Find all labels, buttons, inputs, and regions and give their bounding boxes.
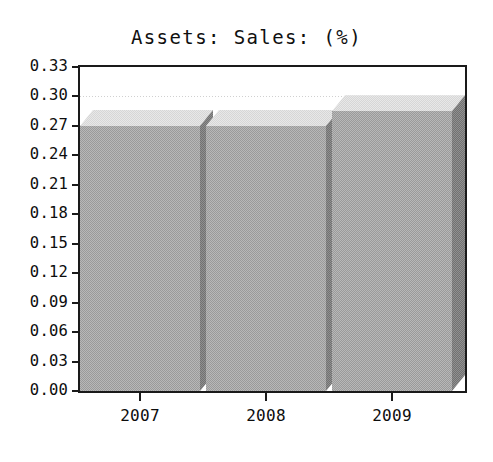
x-axis-tick-mark	[265, 393, 267, 401]
y-axis-tick-label: 0.00	[0, 381, 68, 399]
y-axis-tick-label: 0.24	[0, 145, 68, 163]
y-axis-tick-label: 0.27	[0, 116, 68, 134]
x-axis-tick-mark	[139, 393, 141, 401]
y-axis-tick-label: 0.15	[0, 234, 68, 252]
x-axis-tick-label: 2009	[352, 406, 432, 425]
y-axis-tick-label: 0.33	[0, 57, 68, 75]
bar-top-face	[332, 95, 465, 111]
bar-top-face	[206, 110, 339, 126]
y-axis-tick-label: 0.06	[0, 322, 68, 340]
x-axis-tick-label: 2008	[226, 406, 306, 425]
x-axis-tick-mark	[391, 393, 393, 401]
bar-front-face	[332, 111, 452, 391]
x-axis-tick-label: 2007	[100, 406, 180, 425]
bar-front-face	[206, 126, 326, 391]
y-axis-tick-label: 0.18	[0, 204, 68, 222]
bar-front-face	[80, 126, 200, 391]
y-axis-tick-label: 0.12	[0, 263, 68, 281]
chart-title: Assets: Sales: (%)	[0, 26, 493, 48]
y-axis-tick-label: 0.21	[0, 175, 68, 193]
y-axis-tick-label: 0.09	[0, 293, 68, 311]
bar-2007	[80, 110, 213, 391]
bar-chart: Assets: Sales: (%) 0.330.300.270.240.210…	[0, 0, 493, 462]
bar-2009	[332, 95, 465, 391]
y-axis-tick-label: 0.03	[0, 352, 68, 370]
bar-top-face	[80, 110, 213, 126]
plot-area	[80, 67, 465, 391]
y-axis-tick-label: 0.30	[0, 86, 68, 104]
bar-2008	[206, 110, 339, 391]
bar-side-face	[452, 95, 465, 391]
plot-frame	[78, 65, 467, 393]
